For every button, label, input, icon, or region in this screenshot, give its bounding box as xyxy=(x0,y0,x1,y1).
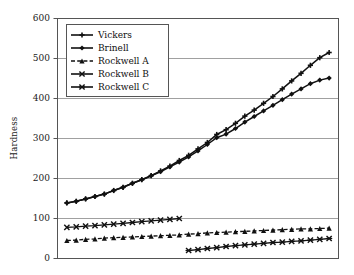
y-axis-tick-label: 300 xyxy=(18,133,50,143)
y-axis-tick-label: 400 xyxy=(18,93,50,103)
data-marker xyxy=(64,200,69,205)
y-axis-tick-label: 200 xyxy=(18,173,50,183)
chart-legend: VickersBrinellRockwell ARockwell BRockwe… xyxy=(66,24,169,97)
legend-label: Rockwell C xyxy=(98,81,149,93)
y-axis-tick-label: 100 xyxy=(18,213,50,223)
data-marker xyxy=(120,185,125,190)
series-rockwell-b xyxy=(64,216,182,230)
data-marker xyxy=(111,188,116,193)
data-marker xyxy=(130,181,135,186)
y-axis-tick-label: 500 xyxy=(18,53,50,63)
legend-label: Brinell xyxy=(98,42,129,54)
series-rockwell-c xyxy=(186,236,333,253)
data-marker xyxy=(102,192,107,197)
legend-marker-icon xyxy=(70,55,94,67)
y-axis-tick-label: 600 xyxy=(18,13,50,23)
legend-marker-icon xyxy=(70,29,94,41)
legend-item-rockwell-b[interactable]: Rockwell B xyxy=(70,67,164,80)
legend-marker-icon xyxy=(70,81,94,93)
data-marker xyxy=(74,199,79,204)
legend-label: Rockwell A xyxy=(98,55,149,67)
legend-marker-icon xyxy=(70,42,94,54)
data-marker xyxy=(317,78,322,83)
legend-item-rockwell-c[interactable]: Rockwell C xyxy=(70,80,164,93)
y-axis-tick-label: 0 xyxy=(18,253,50,263)
legend-label: Rockwell B xyxy=(98,68,149,80)
legend-item-rockwell-a[interactable]: Rockwell A xyxy=(70,54,164,67)
data-marker xyxy=(149,173,154,178)
plot-area xyxy=(0,0,354,275)
legend-item-brinell[interactable]: Brinell xyxy=(70,41,164,54)
data-marker xyxy=(83,196,88,201)
data-marker xyxy=(79,45,84,50)
legend-label: Vickers xyxy=(98,29,132,41)
legend-marker-icon xyxy=(70,68,94,80)
hardness-comparison-chart: Hardness 0100200300400500600 VickersBrin… xyxy=(0,0,354,275)
data-marker xyxy=(139,177,144,182)
data-marker xyxy=(92,194,97,199)
legend-item-vickers[interactable]: Vickers xyxy=(70,28,164,41)
data-marker xyxy=(327,76,332,81)
